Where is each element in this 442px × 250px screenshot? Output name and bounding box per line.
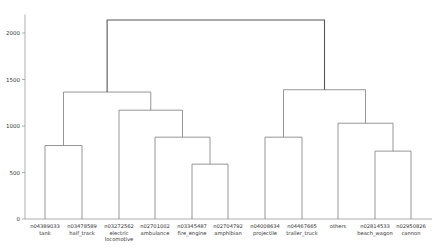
y-tick-label: 0	[17, 216, 21, 222]
leaf-label: half_track	[69, 230, 95, 237]
leaf-label: n04389033	[30, 223, 60, 229]
leaf-label: n02950826	[396, 223, 426, 229]
leaf-label: n02701002	[140, 223, 170, 229]
dendrogram-link	[45, 146, 82, 219]
leaf-label: cannon	[401, 230, 420, 236]
leaf-label: amphibian	[214, 230, 241, 237]
leaf-label: beach_wagon	[357, 230, 393, 237]
dendrogram-link	[375, 151, 411, 219]
leaf-label: n02814533	[360, 223, 390, 229]
dendrogram-link	[338, 123, 393, 219]
dendrogram-link	[64, 92, 151, 145]
dendrogram-link	[107, 20, 324, 92]
leaf-label: trailer_truck	[286, 230, 317, 237]
y-axis: 0500100015002000	[6, 14, 432, 222]
leaf-label: others	[330, 223, 347, 229]
leaf-label: n03345487	[177, 223, 207, 229]
dendrogram-link	[265, 137, 302, 219]
y-tick-label: 1000	[6, 123, 20, 129]
dendrogram-link	[192, 164, 228, 219]
leaf-label: ambulance	[141, 230, 170, 236]
y-tick-label: 500	[10, 170, 21, 176]
leaf-label: n04008634	[250, 223, 280, 229]
dendrogram-link	[284, 90, 366, 137]
leaf-label: n03478589	[67, 223, 97, 229]
dendrogram-links	[45, 20, 411, 219]
leaf-label: n04467665	[287, 223, 317, 229]
leaf-label: locomotive	[105, 236, 134, 242]
leaf-label: n02704792	[213, 223, 243, 229]
y-tick-label: 2000	[6, 30, 20, 36]
leaf-label: tank	[39, 230, 51, 236]
leaf-label: electric	[109, 230, 128, 236]
dendrogram-chart: 0500100015002000 n04389033tankn03478589h…	[0, 0, 442, 250]
dendrogram-link	[155, 137, 210, 219]
y-tick-label: 1500	[6, 77, 20, 83]
dendrogram-link	[119, 110, 183, 219]
leaf-label: projectile	[253, 230, 277, 237]
leaf-labels: n04389033tankn03478589half_trackn0327256…	[30, 223, 426, 242]
leaf-label: n03272562	[104, 223, 134, 229]
leaf-label: fire_engine	[178, 230, 207, 237]
